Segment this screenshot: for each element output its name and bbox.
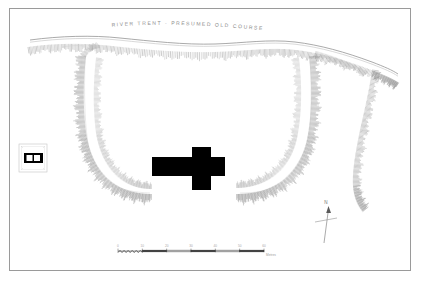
scale-bar-tick-label: 30: [189, 244, 193, 248]
river-label-text: RIVER TRENT - PRESUMED OLD COURSE: [111, 20, 264, 31]
scale-bar-unit-label: Metres: [266, 253, 276, 257]
scale-bar-tick-label: 10: [141, 244, 145, 248]
north-arrow-head: [326, 206, 331, 213]
earthwork-hachures: [28, 42, 399, 212]
hachure-band: [94, 58, 152, 189]
scale-bar: 0102030405060 Metres: [117, 244, 276, 257]
north-arrow-shaft: [324, 209, 329, 243]
scale-bar-body: [118, 249, 264, 253]
scale-bar-tick-label: 0: [117, 244, 119, 248]
cruciform-church-plan: [152, 147, 225, 190]
inset-building-symbol: [24, 153, 43, 163]
hachure-band: [236, 58, 301, 188]
scale-bar-tick-label: 50: [238, 244, 242, 248]
north-arrow: N: [315, 200, 337, 243]
scale-bar-tick-label: 40: [214, 244, 218, 248]
north-arrow-crossbar: [315, 218, 337, 222]
plan-drawing: RIVER TRENT - PRESUMED OLD COURSE: [0, 0, 421, 281]
site-plan-canvas: RIVER TRENT - PRESUMED OLD COURSE: [0, 0, 421, 281]
river-label: RIVER TRENT - PRESUMED OLD COURSE: [111, 20, 264, 31]
north-arrow-label: N: [324, 200, 327, 205]
scale-bar-tick-labels: 0102030405060: [117, 244, 266, 248]
key-inset-box[interactable]: [19, 144, 47, 172]
scale-bar-tick-label: 20: [165, 244, 169, 248]
scale-bar-tick-label: 60: [262, 244, 266, 248]
hachure-band: [353, 70, 381, 212]
